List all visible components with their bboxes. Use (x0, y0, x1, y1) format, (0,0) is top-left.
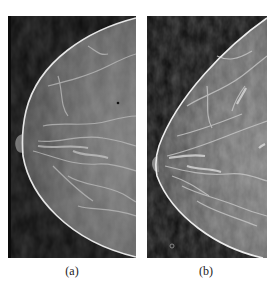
mammogram-image-b (147, 16, 267, 258)
panel-label-b: (b) (186, 264, 226, 279)
small-circle-marker (170, 244, 174, 248)
truncated-caption-text (6, 0, 136, 4)
mammogram-image-a (8, 16, 136, 258)
panel-label-a: (a) (52, 264, 92, 279)
mammogram-panel-b (147, 16, 267, 258)
mammogram-panel-a (8, 16, 136, 258)
